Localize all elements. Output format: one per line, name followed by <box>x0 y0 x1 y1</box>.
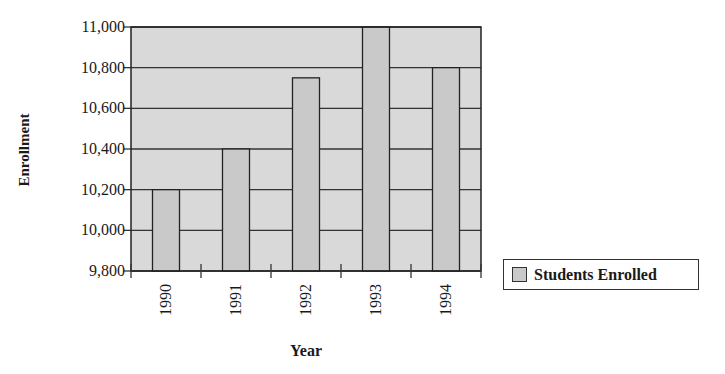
bar-1992 <box>293 78 320 271</box>
y-tick-label: 9,800 <box>89 262 125 280</box>
bar-1991 <box>223 149 250 271</box>
y-tick-label: 11,000 <box>82 18 125 36</box>
y-tick-label: 10,200 <box>81 181 125 199</box>
legend-label: Students Enrolled <box>534 266 657 284</box>
x-tick-label: 1991 <box>227 284 245 316</box>
y-tick-label: 10,400 <box>81 140 125 158</box>
x-tick-label: 1994 <box>437 284 455 316</box>
legend: Students Enrolled <box>503 259 699 290</box>
bar-1990 <box>153 190 180 271</box>
y-tick-label: 10,000 <box>81 221 125 239</box>
x-tick-label: 1992 <box>297 284 315 316</box>
bar-1993 <box>363 27 390 271</box>
legend-swatch <box>512 267 527 282</box>
x-tick-label: 1990 <box>157 284 175 316</box>
bar-1994 <box>433 68 460 271</box>
y-tick-label: 10,600 <box>81 99 125 117</box>
x-axis-label: Year <box>290 342 322 360</box>
x-tick-label: 1993 <box>367 284 385 316</box>
y-axis-label: Enrollment <box>16 113 33 186</box>
y-tick-label: 10,800 <box>81 59 125 77</box>
